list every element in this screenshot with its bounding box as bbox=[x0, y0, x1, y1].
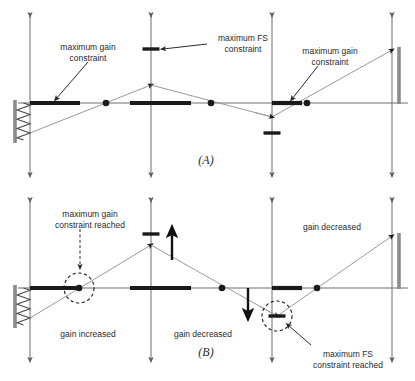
trajectory-segment-1 bbox=[30, 245, 151, 318]
maximum-fs-constraint-reached-leader bbox=[288, 325, 311, 345]
diagram-canvas: maximum gainconstraintmaximum FSconstrai… bbox=[0, 0, 415, 381]
node-2 bbox=[219, 285, 226, 292]
maximum-fs-constraint-reached-label: maximum FSconstraint reached bbox=[313, 349, 383, 370]
maximum-gain-constraint-left-label: maximum gainconstraint bbox=[60, 42, 116, 63]
panel-label-B: (B) bbox=[198, 345, 213, 359]
trajectory-segment-1 bbox=[30, 85, 151, 133]
left-wall-spring bbox=[17, 103, 30, 140]
node-3 bbox=[304, 100, 311, 107]
panel-B: maximum gainconstraint reachedgain incre… bbox=[15, 200, 408, 370]
trajectory-turn-arrow-2 bbox=[255, 113, 272, 117]
maximum-fs-constraint-leader bbox=[163, 44, 207, 49]
gain-increased-label: gain increased bbox=[60, 329, 116, 339]
maximum-gain-constraint-right-label: maximum gainconstraint bbox=[302, 46, 358, 67]
node-1 bbox=[103, 100, 110, 107]
gain-decreased-right-label: gain decreased bbox=[303, 222, 361, 232]
trajectory-segment-2 bbox=[151, 245, 277, 316]
maximum-gain-constraint-left-leader bbox=[56, 62, 88, 99]
panel-label-A: (A) bbox=[198, 153, 213, 167]
left-wall-spring bbox=[17, 288, 30, 325]
maximum-gain-constraint-reached-label: maximum gainconstraint reached bbox=[55, 209, 125, 230]
figure-container: maximum gainconstraintmaximum FSconstrai… bbox=[0, 0, 415, 381]
node-1 bbox=[76, 285, 83, 292]
trajectory-segment-3 bbox=[277, 236, 392, 316]
node-3 bbox=[314, 285, 321, 292]
panel-A: maximum gainconstraintmaximum FSconstrai… bbox=[15, 15, 408, 175]
panels-root: maximum gainconstraintmaximum FSconstrai… bbox=[15, 15, 408, 370]
gain-decreased-center-label: gain decreased bbox=[174, 329, 232, 339]
node-2 bbox=[208, 100, 215, 107]
maximum-fs-constraint-label: maximum FSconstraint bbox=[218, 33, 268, 54]
